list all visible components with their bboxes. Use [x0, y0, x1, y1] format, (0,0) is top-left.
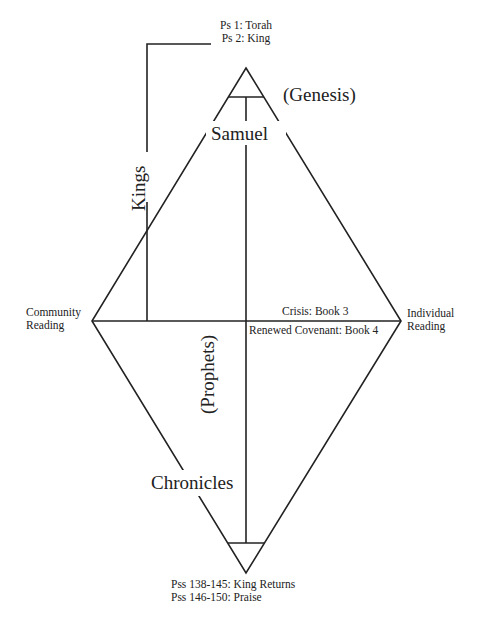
top-note: Ps 1: Torah Ps 2: King: [196, 19, 296, 45]
crisis-label: Crisis: Book 3: [282, 305, 348, 318]
kings-label: Kings: [128, 166, 150, 211]
left-vertex-line1: Community: [26, 306, 81, 319]
bottom-note-line1: Pss 138-145: King Returns: [171, 578, 295, 591]
top-note-line1: Ps 1: Torah: [196, 19, 296, 32]
right-vertex-line2: Reading: [407, 320, 454, 333]
kings-bracket: [147, 44, 211, 321]
genesis-label: (Genesis): [283, 84, 356, 106]
chronicles-label: Chronicles: [151, 472, 233, 494]
bottom-note-line2: Pss 146-150: Praise: [171, 591, 295, 604]
samuel-label: Samuel: [211, 123, 268, 145]
left-vertex-label: Community Reading: [26, 306, 81, 332]
prophets-label: (Prophets): [197, 335, 219, 414]
right-vertex-label: Individual Reading: [407, 307, 454, 333]
right-vertex-line1: Individual: [407, 307, 454, 320]
left-vertex-line2: Reading: [26, 319, 81, 332]
top-note-line2: Ps 2: King: [196, 32, 296, 45]
renewed-covenant-label: Renewed Covenant: Book 4: [249, 324, 378, 337]
bottom-note: Pss 138-145: King Returns Pss 146-150: P…: [171, 578, 295, 604]
